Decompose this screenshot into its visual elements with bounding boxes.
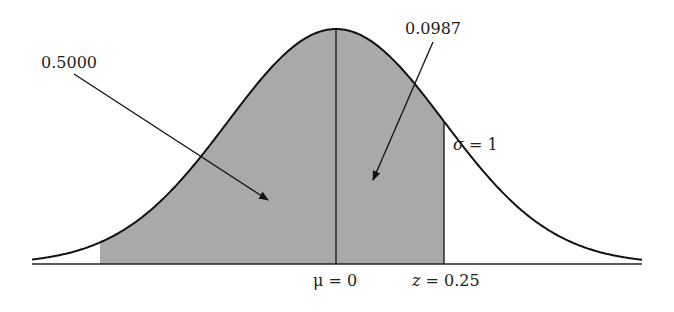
mean-label: μ = 0 <box>313 271 357 290</box>
area-right-label: 0.0987 <box>405 19 461 38</box>
normal-curve-diagram: 0.5000 0.0987 σ = 1 μ = 0 z = 0.25 <box>0 0 674 312</box>
sigma-label: σ = 1 <box>453 135 498 154</box>
z-label: z = 0.25 <box>411 271 480 290</box>
area-left-label: 0.5000 <box>41 53 97 72</box>
shaded-area <box>100 29 444 264</box>
